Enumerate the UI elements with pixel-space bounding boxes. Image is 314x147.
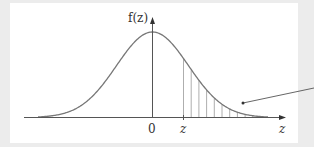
y-axis-arrowhead <box>150 17 155 24</box>
normal-distribution-diagram <box>0 0 314 147</box>
x-axis-label: z <box>279 123 285 135</box>
annotation-pointer-line <box>243 88 314 103</box>
y-axis-label: f(z) <box>128 12 148 24</box>
shaded-tail-hatching <box>184 58 261 117</box>
x-axis-arrowhead <box>279 115 286 120</box>
annotation-pointer-dot <box>242 102 245 105</box>
z-tick-label: z <box>180 123 186 135</box>
origin-tick-label: 0 <box>148 123 156 135</box>
